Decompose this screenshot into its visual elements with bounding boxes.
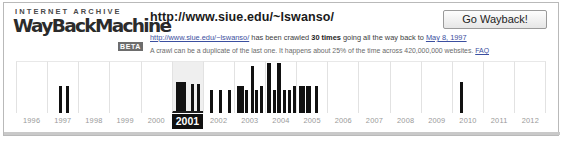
crawl-bar[interactable]	[183, 82, 186, 111]
bar-group-2002	[204, 61, 234, 113]
timeline-year-columns	[16, 61, 546, 113]
bar-group-2012	[515, 61, 545, 113]
year-label-2012[interactable]: 2012	[515, 114, 546, 129]
timeline-year-column-2010[interactable]	[452, 61, 483, 113]
bar-group-1997	[48, 61, 78, 113]
bar-group-1996	[17, 61, 47, 113]
crawl-bar[interactable]	[237, 86, 244, 113]
crawl-bar[interactable]	[299, 86, 305, 113]
page-title-url: http://www.siue.edu/~lswanso/	[150, 10, 334, 24]
bar-group-2004	[266, 61, 296, 113]
bar-group-2003	[235, 61, 265, 113]
bar-group-2009	[422, 61, 452, 113]
duplicate-crawl-note: A crawl can be a duplicate of the last o…	[150, 46, 489, 55]
timeline-year-column-2012[interactable]	[514, 61, 546, 113]
header: INTERNET ARCHIVE WayBackMachine BETA htt…	[4, 3, 560, 58]
crawl-summary-line: http://www.siue.edu/~lswanso/ has been c…	[150, 33, 467, 42]
crawl-bar[interactable]	[260, 86, 263, 113]
year-label-2009[interactable]: 2009	[421, 114, 452, 129]
wayback-machine-logo[interactable]: INTERNET ARCHIVE WayBackMachine BETA	[13, 7, 141, 47]
year-label-2008[interactable]: 2008	[390, 114, 421, 129]
crawl-count: 30 times	[311, 33, 341, 42]
crawl-bar[interactable]	[245, 90, 248, 113]
crawl-bar[interactable]	[277, 63, 281, 113]
year-label-2006[interactable]: 2006	[328, 114, 359, 129]
year-label-2000[interactable]: 2000	[141, 114, 172, 129]
beta-badge: BETA	[118, 42, 143, 51]
crawl-bar[interactable]	[267, 63, 271, 113]
crawl-bar[interactable]	[283, 90, 286, 113]
year-label-2010[interactable]: 2010	[452, 114, 483, 129]
timeline-year-column-1999[interactable]	[109, 61, 140, 113]
bar-group-2001	[173, 59, 203, 111]
year-label-1996[interactable]: 1996	[16, 114, 47, 129]
wayback-machine-wordmark: WayBackMachine	[13, 17, 149, 36]
timeline-year-column-1997[interactable]	[47, 61, 78, 113]
crawl-bar[interactable]	[306, 86, 311, 113]
crawl-text-after-count: going all the way back to	[341, 33, 426, 42]
crawl-bar[interactable]	[191, 84, 194, 111]
year-label-2001[interactable]: 2001	[172, 114, 203, 129]
timeline-year-column-2003[interactable]	[234, 61, 265, 113]
crawl-bar[interactable]	[273, 90, 276, 113]
crawl-bar[interactable]	[255, 90, 258, 113]
crawl-bar[interactable]	[66, 86, 69, 113]
crawl-text-before-count: has been crawled	[249, 33, 311, 42]
crawl-bar[interactable]	[293, 86, 296, 113]
bottom-divider	[4, 132, 560, 135]
crawl-bar[interactable]	[251, 66, 254, 113]
first-crawl-date-link[interactable]: May 8, 1997	[426, 33, 467, 42]
timeline-year-column-2005[interactable]	[296, 61, 327, 113]
timeline-year-column-2008[interactable]	[390, 61, 421, 113]
timeline-year-column-2011[interactable]	[483, 61, 514, 113]
timeline-year-column-2002[interactable]	[203, 61, 234, 113]
timeline-year-column-2004[interactable]	[265, 61, 296, 113]
year-label-2002[interactable]: 2002	[203, 114, 234, 129]
crawl-bar[interactable]	[288, 90, 291, 113]
go-wayback-button[interactable]: Go Wayback!	[443, 10, 547, 29]
timeline-year-column-2007[interactable]	[358, 61, 389, 113]
crawl-bar[interactable]	[219, 90, 222, 113]
crawl-timeline[interactable]: 1996199719981999200020012002200320042005…	[4, 58, 560, 137]
crawl-bar[interactable]	[176, 82, 183, 111]
widget-frame: INTERNET ARCHIVE WayBackMachine BETA htt…	[3, 2, 559, 136]
duplicate-crawl-text: A crawl can be a duplicate of the last o…	[150, 47, 475, 54]
year-label-2004[interactable]: 2004	[265, 114, 296, 129]
bar-group-2010	[453, 61, 483, 113]
crawl-bar[interactable]	[460, 82, 463, 113]
crawl-bar[interactable]	[210, 90, 213, 113]
timeline-year-column-2000[interactable]	[141, 61, 172, 113]
timeline-year-labels: 1996199719981999200020012002200320042005…	[16, 114, 546, 129]
bar-group-2005	[297, 61, 327, 113]
year-label-1999[interactable]: 1999	[110, 114, 141, 129]
year-label-2007[interactable]: 2007	[359, 114, 390, 129]
year-label-1998[interactable]: 1998	[78, 114, 109, 129]
timeline-year-column-2001[interactable]	[172, 61, 203, 113]
year-label-2003[interactable]: 2003	[234, 114, 265, 129]
internet-archive-kicker: INTERNET ARCHIVE	[13, 7, 141, 16]
timeline-year-column-2009[interactable]	[421, 61, 452, 113]
year-label-2005[interactable]: 2005	[297, 114, 328, 129]
bar-group-2011	[484, 61, 514, 113]
timeline-year-column-1998[interactable]	[78, 61, 109, 113]
crawl-bar[interactable]	[59, 86, 62, 113]
timeline-year-column-1996[interactable]	[16, 61, 47, 113]
year-label-1997[interactable]: 1997	[47, 114, 78, 129]
crawl-bar[interactable]	[197, 84, 200, 111]
faq-link[interactable]: FAQ	[475, 47, 489, 54]
bar-group-2007	[359, 61, 389, 113]
bar-group-1999	[110, 61, 140, 113]
crawl-bar[interactable]	[228, 90, 231, 113]
year-label-2011[interactable]: 2011	[484, 114, 515, 129]
bar-group-2006	[328, 61, 358, 113]
timeline-inner: 1996199719981999200020012002200320042005…	[16, 61, 546, 131]
bar-group-2000	[142, 61, 172, 113]
timeline-year-column-2006[interactable]	[327, 61, 358, 113]
crawled-url-link[interactable]: http://www.siue.edu/~lswanso/	[150, 33, 249, 42]
crawl-bar[interactable]	[315, 86, 318, 113]
bar-group-1998	[79, 61, 109, 113]
wayback-machine-widget: INTERNET ARCHIVE WayBackMachine BETA htt…	[0, 0, 562, 141]
bar-group-2008	[391, 61, 421, 113]
